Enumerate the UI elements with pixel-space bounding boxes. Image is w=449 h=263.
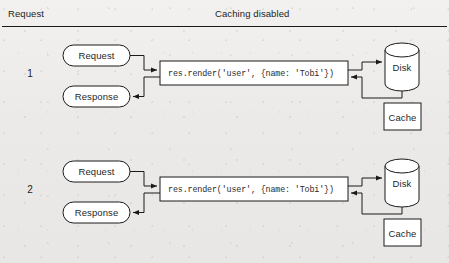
disk-label-1: Disk bbox=[385, 62, 419, 73]
header-request-label: Request bbox=[8, 8, 44, 19]
cache-label-1: Cache bbox=[384, 112, 421, 123]
diagram-vector-layer bbox=[0, 0, 449, 263]
connector-code-to-disk-1 bbox=[348, 62, 382, 70]
code-snippet-2: res.render('user', {name: 'Tobi'}) bbox=[168, 185, 334, 195]
row-number-2: 2 bbox=[22, 184, 38, 195]
response-label-2: Response bbox=[63, 207, 130, 218]
diagram-canvas: Request Caching disabled 1 Request Respo… bbox=[0, 0, 449, 263]
connector-code-to-response-1 bbox=[133, 77, 160, 97]
code-snippet-1: res.render('user', {name: 'Tobi'}) bbox=[168, 69, 334, 79]
row-number-1: 1 bbox=[22, 68, 38, 79]
connector-request-to-code-2 bbox=[130, 172, 157, 187]
cache-label-2: Cache bbox=[384, 228, 421, 239]
header-caching-disabled-label: Caching disabled bbox=[215, 8, 289, 19]
response-label-1: Response bbox=[63, 91, 130, 102]
connector-code-to-response-2 bbox=[133, 193, 160, 213]
connector-request-to-code-1 bbox=[130, 56, 157, 71]
disk-label-2: Disk bbox=[385, 178, 419, 189]
request-label-1: Request bbox=[63, 50, 130, 61]
request-label-2: Request bbox=[63, 166, 130, 177]
connector-code-to-disk-2 bbox=[348, 178, 382, 186]
